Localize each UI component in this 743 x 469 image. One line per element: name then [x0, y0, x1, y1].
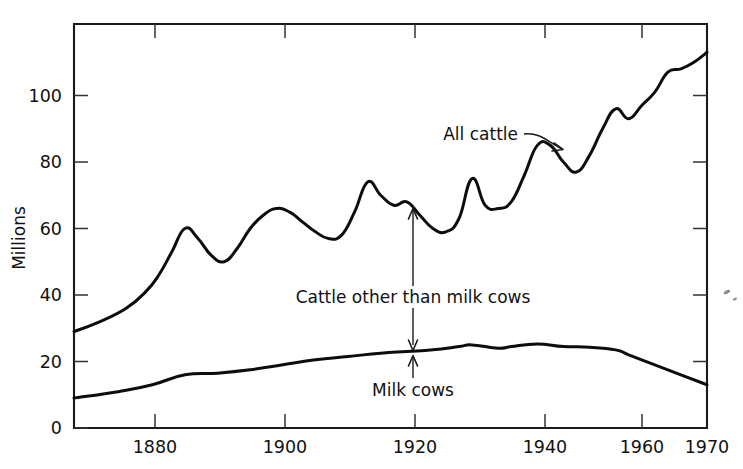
- y-tick-label-80: 80: [40, 152, 62, 172]
- y-tick-label-100: 100: [29, 86, 62, 106]
- scan-speck-artifact: [723, 289, 731, 295]
- x-tick-label-1970: 1970: [685, 437, 730, 457]
- y-axis-title: Millions: [9, 206, 29, 270]
- scan-speck-artifact-2: [732, 297, 737, 301]
- y-tick-label-0: 0: [51, 418, 62, 438]
- y-tick-label-60: 60: [40, 219, 62, 239]
- milk-cows-label: Milk cows: [372, 380, 454, 400]
- x-tick-label-1940: 1940: [523, 437, 568, 457]
- y-tick-label-40: 40: [40, 285, 62, 305]
- chart-canvas: 0 20 40 60 80 100 Millions 1880 1900 192…: [0, 0, 743, 469]
- all-cattle-label: All cattle: [443, 124, 518, 144]
- y-axis-ticks-right: [693, 96, 707, 362]
- x-axis-ticks-top: [155, 24, 642, 38]
- cattle-other-than-milk-cows-label: Cattle other than milk cows: [296, 287, 531, 307]
- plot-frame: [74, 24, 707, 428]
- x-tick-label-1880: 1880: [133, 437, 178, 457]
- x-tick-label-1900: 1900: [263, 437, 308, 457]
- x-tick-label-1960: 1960: [620, 437, 665, 457]
- x-axis-ticks-bottom: [155, 414, 642, 428]
- x-tick-label-1920: 1920: [393, 437, 438, 457]
- y-tick-label-20: 20: [40, 352, 62, 372]
- y-axis-ticks: [74, 96, 88, 429]
- cattle-population-chart: 0 20 40 60 80 100 Millions 1880 1900 192…: [0, 0, 743, 469]
